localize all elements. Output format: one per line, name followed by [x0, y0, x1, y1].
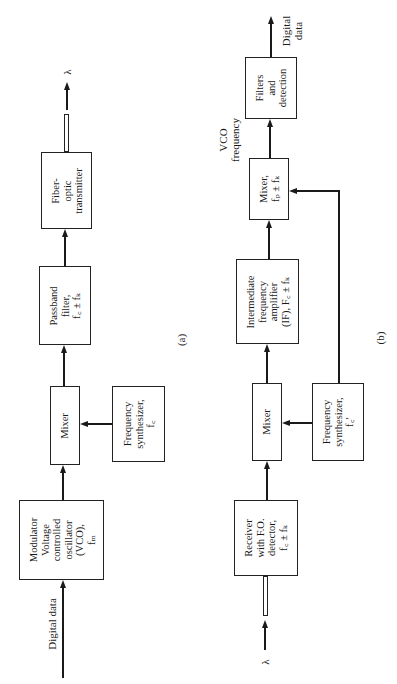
b-input-arrow-icon	[262, 620, 268, 628]
a-input-line	[62, 588, 64, 678]
a-fiber-output	[64, 114, 69, 152]
b-output-line	[270, 24, 272, 57]
a-mixer-to-passband-line	[63, 352, 65, 386]
a-passband-filter-block: Passband filter, f꜀ ± fₖ	[39, 266, 91, 345]
b-synthesizer-text: Frequency synthesizer, f꜀′	[321, 397, 356, 446]
b-mixer2-to-filters-arrow-icon	[267, 119, 273, 127]
b-receiver-block: Receiver with F.O. detector, f꜀ ± fₖ	[234, 500, 298, 576]
a-synth-to-mixer-line	[87, 423, 112, 425]
a-input-arrow-icon	[60, 580, 66, 588]
b-fiber-input	[263, 576, 268, 616]
a-frequency-synthesizer-block: Frequency synthesizer, f꜀	[112, 386, 165, 462]
b-mixer-block: Mixer	[252, 383, 282, 461]
b-caption: (b)	[374, 327, 386, 349]
a-synthesizer-text: Frequency synthesizer, f꜀	[121, 399, 156, 448]
b-synth-feedback-horizontal-line	[296, 190, 339, 192]
a-transmitter-text: Fiber- optic transmitter	[49, 168, 84, 214]
a-passband-to-transmitter-line	[64, 236, 66, 266]
b-receiver-to-mixer-line	[266, 468, 268, 500]
b-filters-text: Filters and detection	[254, 69, 289, 107]
a-vco-to-mixer-line	[62, 472, 64, 500]
b-synth-to-mixer-arrow-icon	[282, 420, 290, 426]
a-output-arrow-icon	[64, 82, 70, 90]
a-modulator-vco-block: Modulator Voltage controlled oscillator …	[19, 500, 104, 580]
a-input-label: Digital data	[46, 584, 58, 664]
b-frequency-synthesizer-block: Frequency synthesizer, f꜀′	[312, 383, 364, 461]
b-if-amplifier-block: Intermediate frequency amplifier (IF), F…	[236, 259, 299, 344]
b-receiver-text: Receiver with F.O. detector, f꜀ ± fₖ	[243, 518, 289, 557]
b-filters-detection-block: Filters and detection	[245, 57, 297, 119]
a-modulator-vco-text: Modulator Voltage controlled oscillator …	[27, 518, 96, 562]
b-if-amplifier-text: Intermediate frequency amplifier (IF), F…	[245, 275, 291, 328]
b-mixer2-text: Mixer, fₚ ± fₖ	[258, 175, 281, 203]
b-feedback-arrow-icon	[289, 188, 297, 194]
b-synth-to-mixer-line	[289, 422, 312, 424]
a-caption: (a)	[175, 329, 187, 351]
a-output-line	[66, 90, 68, 110]
a-vco-to-mixer-arrow-icon	[60, 465, 66, 473]
a-mixer-text: Mixer	[59, 413, 71, 439]
b-mixer-to-if-arrow-icon	[264, 344, 270, 352]
a-mixer-to-passband-arrow-icon	[61, 345, 67, 353]
a-passband-to-transmitter-arrow-icon	[62, 229, 68, 237]
b-mixer2-block: Mixer, fₚ ± fₖ	[249, 158, 289, 220]
b-if-to-mixer2-arrow-icon	[266, 220, 272, 228]
b-mixer-text: Mixer	[261, 409, 273, 435]
a-synth-to-mixer-arrow-icon	[80, 421, 88, 427]
a-fiber-optic-transmitter-block: Fiber- optic transmitter	[41, 152, 92, 229]
b-if-to-mixer2-line	[268, 227, 270, 259]
b-output-label: Digital data	[280, 9, 304, 53]
b-synth-feedback-vertical-line	[338, 190, 340, 383]
b-input-lambda-label: λ	[259, 655, 271, 669]
b-mixer2-to-filters-line	[269, 126, 271, 158]
b-mixer-to-if-line	[266, 351, 268, 383]
b-output-arrow-icon	[268, 16, 274, 24]
b-receiver-to-mixer-arrow-icon	[264, 461, 270, 469]
a-output-lambda-label: λ	[61, 65, 73, 79]
b-vco-frequency-label: VCO frequency	[217, 110, 241, 170]
a-mixer-block: Mixer	[50, 386, 80, 465]
a-passband-text: Passband filter, f꜀ ± fₖ	[48, 286, 83, 325]
b-input-line	[264, 628, 266, 650]
